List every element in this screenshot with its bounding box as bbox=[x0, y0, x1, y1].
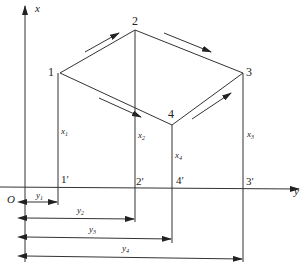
edge-4-3 bbox=[172, 73, 243, 125]
axes bbox=[0, 6, 299, 262]
y-axis-label: y bbox=[293, 185, 299, 197]
point-4-projection-label: 4′ bbox=[176, 174, 184, 186]
dim-label-y2: y2 bbox=[76, 205, 84, 216]
origin-label: O bbox=[7, 193, 15, 205]
point-2-projection-label: 2′ bbox=[136, 175, 144, 187]
dim-y2 bbox=[26, 218, 134, 219]
dim-label-y4: y4 bbox=[121, 243, 129, 254]
point-3-projection-label: 3′ bbox=[246, 175, 254, 187]
polygon-edges bbox=[60, 30, 243, 125]
arrow-2-3-icon bbox=[164, 33, 211, 52]
dimension-lines bbox=[26, 202, 242, 259]
y-axis-line bbox=[0, 187, 299, 189]
height-label-x2: x2 bbox=[137, 130, 145, 141]
projection-lines bbox=[58, 30, 243, 262]
edge-1-4 bbox=[60, 73, 172, 125]
point-1-projection-label: 1′ bbox=[61, 173, 69, 185]
height-label-x4: x4 bbox=[174, 150, 182, 161]
edge-1-2 bbox=[60, 30, 135, 73]
dim-y4 bbox=[26, 256, 242, 259]
diagram-canvas: x y O 1 2 3 4 1′ 2′ 3′ 4′ x1 x2 x3 x4 bbox=[0, 0, 303, 277]
height-label-x1: x1 bbox=[60, 126, 68, 137]
dim-label-y1: y1 bbox=[35, 190, 43, 201]
edge-2-3 bbox=[135, 30, 243, 73]
dim-label-y3: y3 bbox=[88, 224, 96, 235]
point-2-label: 2 bbox=[132, 14, 138, 28]
point-1-label: 1 bbox=[48, 65, 54, 79]
height-label-x3: x3 bbox=[246, 129, 254, 140]
x-axis-label: x bbox=[34, 2, 40, 14]
point-3-label: 3 bbox=[246, 65, 252, 79]
dim-y3 bbox=[26, 237, 171, 239]
point-4-label: 4 bbox=[168, 107, 174, 121]
